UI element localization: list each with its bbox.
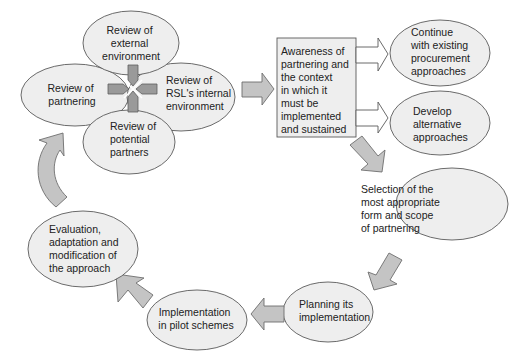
hollow-arrow-to-continue (356, 38, 388, 71)
arrow-to-pilot (251, 298, 284, 330)
label-pilot: Implementation in pilot schemes (158, 306, 233, 331)
arrow-to-selection (350, 136, 385, 172)
hollow-arrow-to-develop (356, 102, 388, 133)
process-diagram: Review of external environment Review of… (0, 0, 511, 363)
label-review-partnering: Review of partnering (47, 82, 96, 107)
diagram-canvas: Review of external environment Review of… (0, 0, 511, 363)
arrow-to-planning (368, 253, 402, 290)
arrow-to-awareness (242, 73, 274, 105)
arrow-to-evaluation (116, 274, 153, 308)
curved-arrow-to-review (38, 133, 67, 207)
